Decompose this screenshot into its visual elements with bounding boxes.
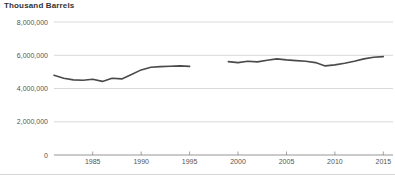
series-line-segment-2 — [228, 57, 383, 66]
x-axis-tick-label: 1990 — [133, 158, 149, 165]
x-axis-tick-label: 1985 — [85, 158, 101, 165]
y-axis-tick-label: 6,000,000 — [17, 52, 48, 59]
x-axis-tick-label: 2015 — [376, 158, 392, 165]
chart-container: Thousand Barrels 02,000,0004,000,0006,00… — [0, 0, 395, 182]
line-chart-plot: 02,000,0004,000,0006,000,0008,000,000 19… — [0, 0, 395, 182]
y-axis-tick-label: 2,000,000 — [17, 118, 48, 125]
y-axis-tick-label: 0 — [44, 152, 48, 159]
y-axis-tick-label: 8,000,000 — [17, 19, 48, 26]
x-axis-tick-label: 1995 — [182, 158, 198, 165]
gridlines-group — [54, 22, 393, 155]
x-axis-tick-label: 2010 — [327, 158, 343, 165]
x-axis-tick-label: 2005 — [279, 158, 295, 165]
y-axis-tick-labels: 02,000,0004,000,0006,000,0008,000,000 — [17, 19, 48, 159]
x-axis-tick-label: 2000 — [230, 158, 246, 165]
data-series-group — [54, 57, 383, 82]
x-axis — [93, 152, 384, 156]
y-axis-tick-label: 4,000,000 — [17, 85, 48, 92]
x-axis-tick-labels: 1985199019952000200520102015 — [85, 158, 391, 165]
series-line-segment-1 — [54, 66, 190, 82]
